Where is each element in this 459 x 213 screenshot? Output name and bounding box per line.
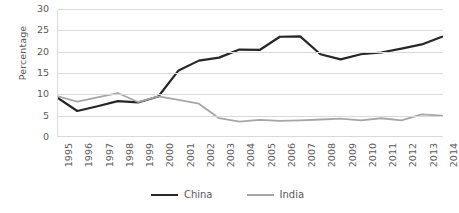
y-tick-label: 0 <box>3 132 49 142</box>
x-tick-label: 2005 <box>266 143 277 183</box>
x-tick-label: 2006 <box>286 143 297 183</box>
chart-legend: ChinaIndia <box>0 186 455 204</box>
legend-item-india[interactable]: India <box>247 189 305 201</box>
plot-area <box>57 9 443 137</box>
series-line-india <box>57 93 442 122</box>
x-tick-label: 1999 <box>144 143 155 183</box>
gridline <box>57 116 443 117</box>
x-tick-label: 1998 <box>124 143 135 183</box>
x-axis-tick-labels: 1995199619971998199920002001200220032004… <box>57 141 443 181</box>
x-tick-label: 1997 <box>104 143 115 183</box>
y-tick-label: 30 <box>3 4 49 14</box>
y-tick-label: 5 <box>3 111 49 121</box>
legend-swatch-india-icon <box>247 194 274 196</box>
y-tick-label: 10 <box>3 89 49 99</box>
x-tick-label: 2013 <box>428 143 439 183</box>
legend-item-china[interactable]: China <box>151 189 213 201</box>
legend-label: China <box>184 189 213 201</box>
y-tick-label: 25 <box>3 25 49 35</box>
x-tick-label: 2010 <box>367 143 378 183</box>
x-tick-label: 2002 <box>205 143 216 183</box>
x-tick-label: 2001 <box>185 143 196 183</box>
y-tick-label: 15 <box>3 68 49 78</box>
legend-label: India <box>280 189 305 201</box>
y-axis-tick-labels: 302520151050 <box>0 0 55 213</box>
x-tick-label: 2007 <box>306 143 317 183</box>
x-tick-label: 1996 <box>83 143 94 183</box>
x-tick-label: 2014 <box>448 143 459 183</box>
gridline <box>57 30 443 31</box>
x-tick-label: 2003 <box>225 143 236 183</box>
x-tick-label: 2008 <box>326 143 337 183</box>
x-tick-label: 2009 <box>347 143 358 183</box>
gridline <box>57 52 443 53</box>
x-tick-label: 2000 <box>164 143 175 183</box>
gridline <box>57 73 443 74</box>
gridline <box>57 9 443 10</box>
gridline <box>57 136 443 137</box>
x-tick-label: 2012 <box>407 143 418 183</box>
gridline <box>57 94 443 95</box>
x-tick-label: 2004 <box>245 143 256 183</box>
x-tick-label: 1995 <box>63 143 74 183</box>
legend-swatch-china-icon <box>151 194 178 196</box>
y-tick-label: 20 <box>3 47 49 57</box>
x-tick-label: 2011 <box>387 143 398 183</box>
